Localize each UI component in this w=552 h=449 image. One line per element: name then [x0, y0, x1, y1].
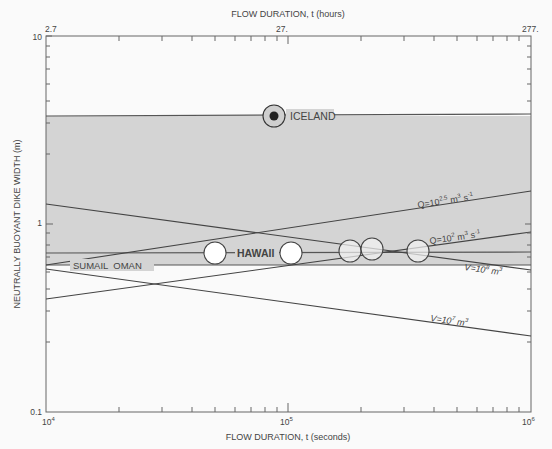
x-tick-1e5: 105: [280, 416, 293, 427]
y-tick-10: 10: [33, 32, 43, 42]
x-tick-1e4: 104: [42, 416, 55, 427]
svg-text:V=107 m3: V=107 m3: [430, 312, 470, 328]
hawaii-point: [361, 238, 383, 260]
v7-label: V=107 m3: [430, 312, 470, 328]
bottom-axis-title: FLOW DURATION, t (seconds): [226, 432, 350, 442]
hawaii-label: HAWAII: [237, 247, 274, 259]
chart: ICELAND HAWAII SUMAIL OMAN Q=102.5 m3 s-…: [0, 0, 552, 449]
iceland-marker: [263, 105, 285, 127]
iceland-label: ICELAND: [290, 110, 336, 122]
hawaii-point: [280, 242, 302, 264]
x-tick-1e6: 106: [522, 416, 535, 427]
top-tick-277: 277.: [522, 24, 539, 34]
top-axis-title: FLOW DURATION, t (hours): [231, 9, 344, 19]
oman-label: SUMAIL OMAN: [73, 260, 142, 271]
hawaii-point: [339, 240, 361, 262]
y-tick-0.1: 0.1: [30, 407, 42, 417]
y-tick-1: 1: [37, 218, 42, 228]
top-tick-2.7: 2.7: [45, 24, 57, 34]
top-tick-27: 27.: [276, 24, 288, 34]
y-axis-title: NEUTRALLY BUOYANT DIKE WIDTH (m): [12, 140, 22, 309]
hawaii-point: [407, 240, 429, 262]
hawaii-point: [204, 242, 226, 264]
